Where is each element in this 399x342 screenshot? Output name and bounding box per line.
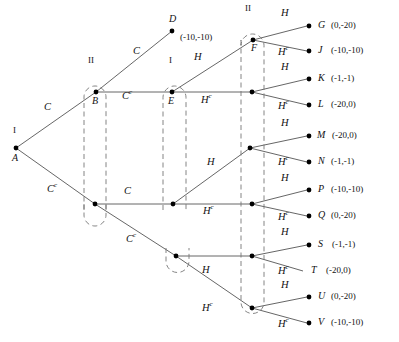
information-set-F bbox=[241, 34, 264, 314]
edge-label-E2-F4: Hc bbox=[203, 204, 214, 216]
edge-F6-U bbox=[252, 297, 307, 308]
node-dot-F3[interactable] bbox=[248, 146, 253, 151]
edge-F2-K bbox=[252, 79, 307, 92]
node-label-B: B bbox=[92, 96, 98, 106]
node-dot-B[interactable] bbox=[94, 90, 99, 95]
terminal-payoff-Q: (0,-20) bbox=[331, 211, 356, 220]
edge-label-B2-E2: C bbox=[124, 186, 131, 197]
terminal-label-J: J bbox=[318, 45, 322, 55]
node-dot-F5[interactable] bbox=[250, 254, 255, 259]
edge-label-F2-L: Hc bbox=[278, 99, 289, 111]
edge-label-F-J: Hc bbox=[278, 45, 289, 57]
edge-label-F4-P: H bbox=[281, 173, 289, 184]
terminal-dot-Q bbox=[307, 214, 312, 219]
edge-label-F6-V: Hc bbox=[278, 317, 289, 329]
terminal-label-K: K bbox=[318, 73, 325, 83]
edge-B-D bbox=[96, 31, 172, 92]
node-label-A: A bbox=[12, 153, 18, 163]
terminal-dot-J bbox=[307, 49, 312, 54]
terminal-label-P: P bbox=[318, 184, 324, 194]
terminal-payoff-N: (-1,-1) bbox=[331, 157, 354, 166]
terminal-label-U: U bbox=[318, 291, 325, 301]
information-set-B-lower bbox=[84, 204, 106, 226]
edge-label-A-B: C bbox=[44, 102, 51, 113]
edge-B2-E3 bbox=[95, 204, 176, 256]
edge-label-F4-Q: Hc bbox=[278, 210, 289, 222]
node-dot-F2[interactable] bbox=[250, 90, 255, 95]
edge-label-E-F2: Hc bbox=[201, 93, 212, 105]
terminal-label-S: S bbox=[318, 239, 323, 249]
game-tree-diagram: I II I II A B E F C Cc C Cc C Cc H Hc H … bbox=[0, 0, 399, 342]
node-dot-E[interactable] bbox=[170, 90, 175, 95]
player-label-B: II bbox=[88, 56, 94, 65]
terminal-payoff-L: (-20,0) bbox=[331, 100, 356, 109]
edge-label-F3-M: H bbox=[281, 118, 289, 129]
terminal-dot-V bbox=[307, 321, 312, 326]
terminal-payoff-D: (-10,-10) bbox=[180, 33, 212, 42]
node-dot-E3[interactable] bbox=[174, 254, 179, 259]
edge-label-B2-E3: Cc bbox=[126, 232, 136, 244]
terminal-label-M: M bbox=[317, 130, 325, 140]
terminal-dot-D bbox=[170, 29, 175, 34]
node-label-E: E bbox=[168, 96, 174, 106]
terminal-dot-S bbox=[307, 243, 312, 248]
terminal-payoff-T: (-20,0) bbox=[326, 266, 351, 275]
terminal-payoff-P: (-10,-10) bbox=[331, 185, 363, 194]
terminal-label-T: T bbox=[311, 265, 317, 275]
terminal-label-V: V bbox=[318, 317, 324, 327]
terminal-dot-N bbox=[307, 160, 312, 165]
edge-label-F5-T: Hc bbox=[278, 264, 289, 276]
terminal-payoff-S: (-1,-1) bbox=[332, 240, 355, 249]
node-dot-group bbox=[14, 24, 312, 326]
terminal-payoff-M: (-20,0) bbox=[332, 131, 357, 140]
edge-label-E3-F5: H bbox=[202, 265, 210, 276]
player-label-E: I bbox=[169, 56, 172, 65]
edge-group bbox=[16, 26, 307, 323]
edge-label-F2-K: H bbox=[281, 62, 289, 73]
terminal-dot-L bbox=[307, 103, 312, 108]
edge-A-B2 bbox=[16, 148, 95, 204]
edge-label-E3-F6: Hc bbox=[202, 301, 213, 313]
node-dot-F6[interactable] bbox=[250, 306, 255, 311]
edge-label-F6-U: H bbox=[281, 280, 289, 291]
terminal-label-Q: Q bbox=[318, 210, 325, 220]
node-dot-A[interactable] bbox=[14, 146, 19, 151]
terminal-label-L: L bbox=[318, 99, 324, 109]
information-set-E bbox=[163, 86, 186, 210]
node-dot-E2[interactable] bbox=[171, 202, 176, 207]
node-dot-B2[interactable] bbox=[93, 202, 98, 207]
edge-label-E2-F3: H bbox=[207, 157, 215, 168]
edge-F3-M bbox=[250, 136, 307, 148]
edge-label-F-G: H bbox=[281, 8, 289, 19]
terminal-payoff-G: (0,-20) bbox=[331, 21, 356, 30]
player-label-A: I bbox=[13, 126, 16, 135]
information-set-group bbox=[84, 34, 264, 314]
terminal-payoff-U: (0,-20) bbox=[331, 292, 356, 301]
terminal-label-G: G bbox=[318, 20, 325, 30]
edge-F4-P bbox=[252, 190, 307, 204]
terminal-payoff-J: (-10,-10) bbox=[331, 46, 363, 55]
player-label-F: II bbox=[245, 4, 251, 13]
terminal-dot-P bbox=[307, 188, 312, 193]
terminal-dot-K bbox=[307, 77, 312, 82]
terminal-dot-U bbox=[307, 295, 312, 300]
terminal-payoff-K: (-1,-1) bbox=[331, 74, 354, 83]
node-label-F: F bbox=[251, 43, 257, 53]
edge-label-E-F: H bbox=[194, 52, 202, 63]
terminal-label-D: D bbox=[169, 14, 176, 24]
terminal-dot-M bbox=[307, 134, 312, 139]
edge-label-F3-N: Hc bbox=[278, 155, 289, 167]
terminal-label-N: N bbox=[318, 156, 325, 166]
edge-label-F5-S: H bbox=[281, 227, 289, 238]
edge-label-B-D: C bbox=[133, 46, 140, 57]
node-dot-F4[interactable] bbox=[250, 202, 255, 207]
terminal-dot-G bbox=[307, 24, 312, 29]
edge-F5-S bbox=[252, 245, 307, 256]
edge-label-A-B2: Cc bbox=[47, 182, 57, 194]
edge-label-B-E: Cc bbox=[122, 89, 132, 101]
terminal-payoff-V: (-10,-10) bbox=[331, 318, 363, 327]
